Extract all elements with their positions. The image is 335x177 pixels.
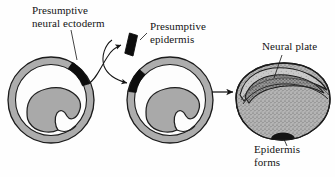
label-presumptive-neural-ectoderm: Presumptive neural ectoderm: [32, 4, 105, 29]
result-embryo-drawing: [236, 63, 330, 146]
epidermis-leader-line: [140, 33, 147, 40]
figure-container: Presumptive neural ectoderm Presumptive …: [0, 0, 335, 177]
graft-arrow: [103, 40, 127, 83]
label-neural-plate: Neural plate: [262, 40, 317, 53]
neural-ectoderm-leader-line: [71, 30, 77, 60]
label-presumptive-epidermis: Presumptive epidermis: [150, 20, 206, 45]
label-epidermis-forms: Epidermis forms: [254, 143, 300, 168]
host-embryo-drawing: [127, 57, 213, 143]
excised-tissue-piece: [125, 33, 138, 56]
donor-embryo-drawing: [8, 57, 94, 143]
